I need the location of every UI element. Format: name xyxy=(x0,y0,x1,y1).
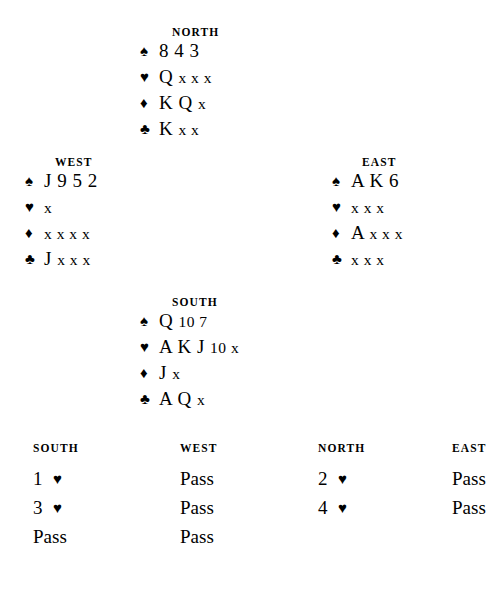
club-icon: ♣ xyxy=(25,252,44,267)
hand-east: EAST ♠ A K 6 ♥ x x x ♦ A x x x ♣ x x x xyxy=(332,156,403,275)
hand-east-spades-cards: A K 6 xyxy=(351,171,399,190)
hand-north-hearts: ♥ Q x x x xyxy=(140,67,219,93)
hand-north-clubs-cards: K x x xyxy=(159,119,199,138)
club-icon: ♣ xyxy=(140,392,159,407)
auction-header-row: SOUTH WEST NORTH EAST xyxy=(0,443,443,469)
auction-header-south: SOUTH xyxy=(0,443,151,455)
auction-bid-south-3: Pass xyxy=(0,527,151,546)
hand-south-diamonds: ♦ J x xyxy=(140,363,239,389)
hand-north-hearts-cards: Q x x x xyxy=(159,67,212,86)
auction-row: 1♥ Pass 2♥ Pass xyxy=(0,469,443,498)
hand-west-hearts: ♥ x xyxy=(25,197,98,223)
diamond-icon: ♦ xyxy=(25,226,44,241)
auction-bid-north-1: 2♥ xyxy=(293,469,430,488)
hand-west: WEST ♠ J 9 5 2 ♥ x ♦ x x x x ♣ J x x x xyxy=(25,156,98,275)
heart-icon: ♥ xyxy=(338,471,347,487)
hand-south-diamonds-cards: J x xyxy=(159,363,180,382)
hand-north-clubs: ♣ K x x xyxy=(140,119,219,145)
hand-east-diamonds-cards: A x x x xyxy=(351,223,403,242)
diamond-icon: ♦ xyxy=(332,226,351,241)
hand-west-clubs-cards: J x x x xyxy=(44,249,91,268)
spade-icon: ♠ xyxy=(140,44,159,59)
heart-icon: ♥ xyxy=(140,340,159,355)
diamond-icon: ♦ xyxy=(140,366,159,381)
hand-north: NORTH ♠ 8 4 3 ♥ Q x x x ♦ K Q x ♣ K x x xyxy=(140,26,219,145)
hand-north-spades-cards: 8 4 3 xyxy=(159,41,200,60)
auction-bid-south-2: 3♥ xyxy=(0,498,151,517)
auction-table: SOUTH WEST NORTH EAST 1♥ Pass 2♥ Pass 3♥… xyxy=(0,443,443,556)
hand-south-label: SOUTH xyxy=(140,296,239,308)
hand-west-spades: ♠ J 9 5 2 xyxy=(25,171,98,197)
club-icon: ♣ xyxy=(140,122,159,137)
hand-south-spades: ♠ Q 10 7 xyxy=(140,311,239,337)
auction-bid-west-2: Pass xyxy=(151,498,293,517)
hand-south-clubs: ♣ A Q x xyxy=(140,389,239,415)
auction-bid-north-2: 4♥ xyxy=(293,498,430,517)
heart-icon: ♥ xyxy=(140,70,159,85)
auction-header-west: WEST xyxy=(151,443,293,455)
heart-icon: ♥ xyxy=(53,471,62,487)
auction-bid-west-3: Pass xyxy=(151,527,293,546)
auction-row: 3♥ Pass 4♥ Pass xyxy=(0,498,443,527)
heart-icon: ♥ xyxy=(332,200,351,215)
auction-bid-east-2: Pass xyxy=(430,498,490,517)
hand-south: SOUTH ♠ Q 10 7 ♥ A K J 10 x ♦ J x ♣ A Q … xyxy=(140,296,239,415)
auction-row: Pass Pass xyxy=(0,527,443,556)
hand-east-hearts-cards: x x x xyxy=(351,197,385,216)
spade-icon: ♠ xyxy=(140,314,159,329)
club-icon: ♣ xyxy=(332,252,351,267)
auction-header-east: EAST xyxy=(430,443,490,455)
auction-bid-south-1: 1♥ xyxy=(0,469,151,488)
hand-east-clubs-cards: x x x xyxy=(351,249,385,268)
hand-west-spades-cards: J 9 5 2 xyxy=(44,171,98,190)
hand-east-hearts: ♥ x x x xyxy=(332,197,403,223)
hand-south-spades-cards: Q 10 7 xyxy=(159,311,208,330)
hand-east-diamonds: ♦ A x x x xyxy=(332,223,403,249)
heart-icon: ♥ xyxy=(53,500,62,516)
spade-icon: ♠ xyxy=(332,174,351,189)
hand-north-diamonds: ♦ K Q x xyxy=(140,93,219,119)
heart-icon: ♥ xyxy=(338,500,347,516)
hand-north-diamonds-cards: K Q x xyxy=(159,93,206,112)
hand-north-spades: ♠ 8 4 3 xyxy=(140,41,219,67)
hand-west-diamonds-cards: x x x x xyxy=(44,223,90,242)
auction-header-north: NORTH xyxy=(293,443,430,455)
auction-bid-west-1: Pass xyxy=(151,469,293,488)
diamond-icon: ♦ xyxy=(140,96,159,111)
hand-north-label: NORTH xyxy=(140,26,219,38)
auction-bid-east-1: Pass xyxy=(430,469,490,488)
hand-east-clubs: ♣ x x x xyxy=(332,249,403,275)
hand-south-hearts-cards: A K J 10 x xyxy=(159,337,239,356)
hand-west-label: WEST xyxy=(25,156,98,168)
hand-east-label: EAST xyxy=(332,156,403,168)
hand-west-hearts-cards: x xyxy=(44,197,52,216)
hand-east-spades: ♠ A K 6 xyxy=(332,171,403,197)
spade-icon: ♠ xyxy=(25,174,44,189)
hand-south-hearts: ♥ A K J 10 x xyxy=(140,337,239,363)
hand-west-clubs: ♣ J x x x xyxy=(25,249,98,275)
heart-icon: ♥ xyxy=(25,200,44,215)
hand-south-clubs-cards: A Q x xyxy=(159,389,205,408)
hand-west-diamonds: ♦ x x x x xyxy=(25,223,98,249)
